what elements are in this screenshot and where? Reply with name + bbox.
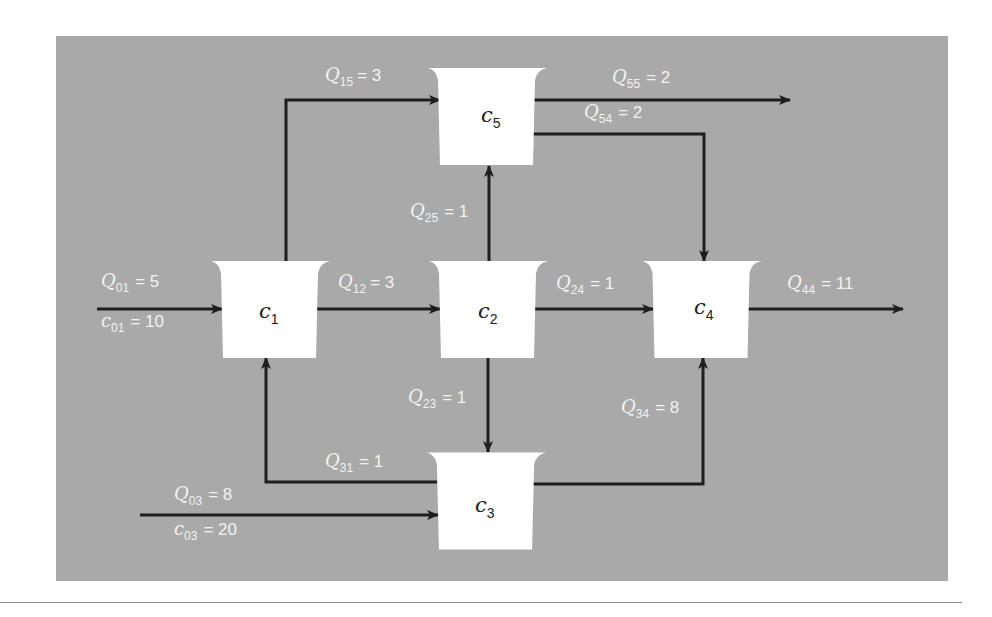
label-q55: Q55= 2 (612, 66, 670, 91)
reactor-c2: c2 (429, 261, 548, 358)
reactor-c5-symbol: c (481, 103, 493, 127)
reactor-c5: c5 (428, 68, 547, 165)
flow-arrow-q34 (533, 358, 703, 484)
reactor-c4-symbol: c (694, 295, 706, 319)
reactor-c1-symbol: c (259, 299, 271, 323)
flow-arrow-q54 (533, 134, 704, 261)
label-q25: Q25= 1 (410, 200, 468, 225)
reactor-network-diagram: c1 c2 c3 c4 c5 Q01= 5 c01= 10 Q12= 3 Q15… (0, 0, 992, 617)
reactor-c2-symbol: c (478, 299, 490, 323)
label-q15: Q15= 3 (325, 64, 381, 89)
label-q01: Q01= 5 (101, 270, 159, 295)
label-q12: Q12= 3 (338, 271, 394, 296)
label-q24: Q24= 1 (556, 272, 614, 297)
label-q23: Q23= 1 (408, 386, 466, 411)
reactor-c4: c4 (643, 261, 762, 358)
label-q34: Q34= 8 (621, 396, 679, 421)
flow-arrow-q15 (286, 100, 440, 261)
label-q03: Q03= 8 (174, 483, 232, 508)
reactor-c1: c1 (211, 261, 330, 358)
label-c01: c01= 10 (101, 310, 164, 335)
label-q31: Q31= 1 (325, 450, 383, 475)
reactor-c3-symbol: c (475, 493, 487, 517)
reactor-c3: c3 (427, 452, 546, 549)
label-c03: c03= 20 (174, 518, 237, 543)
label-q54: Q54= 2 (584, 101, 642, 126)
label-q44: Q44= 11 (787, 272, 853, 297)
